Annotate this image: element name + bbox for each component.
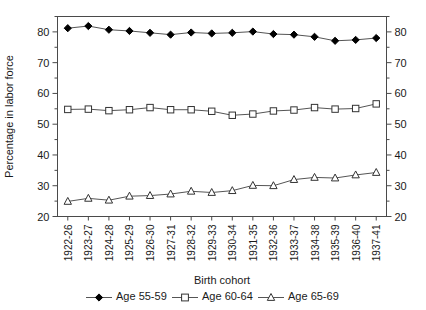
plot-border <box>58 17 387 217</box>
y-tick-label-right: 60 <box>395 87 407 99</box>
x-tick-label: 1926-30 <box>145 224 156 261</box>
x-tick-label: 1931-35 <box>248 224 259 261</box>
x-tick-label: 1934-38 <box>310 224 321 261</box>
data-point-marker <box>147 104 153 110</box>
data-point-marker <box>167 107 173 113</box>
y-tick-label-left: 70 <box>37 57 49 69</box>
line-chart: 20304050607080 20304050607080 1922-26192… <box>0 0 426 310</box>
y-tick-label-left: 80 <box>37 26 49 38</box>
x-tick-label: 1928-32 <box>186 224 197 261</box>
x-tick-label: 1936-40 <box>351 224 362 261</box>
legend-marker-square-icon <box>182 294 189 301</box>
y-axis-right-ticks: 20304050607080 <box>387 17 407 223</box>
data-point-marker <box>126 107 132 113</box>
chart-legend: Age 55-59Age 60-64Age 65-69 <box>86 290 339 302</box>
x-tick-label: 1925-29 <box>124 224 135 261</box>
legend-marker-triangle-icon <box>267 294 274 301</box>
legend-item-age-55-59[interactable]: Age 55-59 <box>86 290 167 302</box>
data-point-marker <box>250 111 256 117</box>
x-tick-label: 1924-28 <box>104 224 115 261</box>
x-tick-label: 1930-34 <box>227 224 238 261</box>
y-tick-label-left: 60 <box>37 87 49 99</box>
x-tick-label: 1937-41 <box>371 224 382 261</box>
x-tick-label: 1929-33 <box>207 224 218 261</box>
x-tick-label: 1923-27 <box>83 224 94 261</box>
x-tick-label: 1935-39 <box>330 224 341 261</box>
y-tick-label-left: 50 <box>37 118 49 130</box>
legend-label: Age 55-59 <box>116 290 167 302</box>
y-tick-label-right: 70 <box>395 57 407 69</box>
y-tick-label-left: 20 <box>37 211 49 223</box>
y-tick-label-right: 30 <box>395 180 407 192</box>
x-tick-label: 1932-36 <box>268 224 279 261</box>
x-tick-label: 1933-37 <box>289 224 300 261</box>
data-point-marker <box>85 106 91 112</box>
x-axis-title: Birth cohort <box>194 274 250 286</box>
data-point-marker <box>229 112 235 118</box>
legend-marker-diamond-icon <box>95 294 102 301</box>
y-tick-label-right: 80 <box>395 26 407 38</box>
x-tick-label: 1927-31 <box>166 224 177 261</box>
y-tick-label-right: 50 <box>395 118 407 130</box>
legend-label: Age 65-69 <box>288 290 339 302</box>
data-point-marker <box>332 106 338 112</box>
legend-label: Age 60-64 <box>202 290 253 302</box>
plot-area <box>58 17 387 217</box>
y-tick-label-right: 40 <box>395 149 407 161</box>
y-axis-left-ticks: 20304050607080 <box>37 17 57 223</box>
y-tick-label-left: 40 <box>37 149 49 161</box>
legend-item-age-65-69[interactable]: Age 65-69 <box>258 290 339 302</box>
data-point-marker <box>291 107 297 113</box>
y-axis-title: Percentage in labor force <box>3 55 15 178</box>
data-point-marker <box>373 101 379 107</box>
data-point-marker <box>352 105 358 111</box>
data-point-marker <box>311 104 317 110</box>
x-axis-ticks: 1922-261923-271924-281925-291926-301927-… <box>63 217 382 262</box>
data-point-marker <box>106 107 112 113</box>
y-tick-label-left: 30 <box>37 180 49 192</box>
chart-container: 20304050607080 20304050607080 1922-26192… <box>0 0 426 310</box>
data-point-marker <box>65 106 71 112</box>
data-point-marker <box>270 108 276 114</box>
y-tick-label-right: 20 <box>395 211 407 223</box>
x-tick-label: 1922-26 <box>63 224 74 261</box>
data-point-marker <box>209 108 215 114</box>
data-point-marker <box>188 107 194 113</box>
legend-item-age-60-64[interactable]: Age 60-64 <box>172 290 253 302</box>
